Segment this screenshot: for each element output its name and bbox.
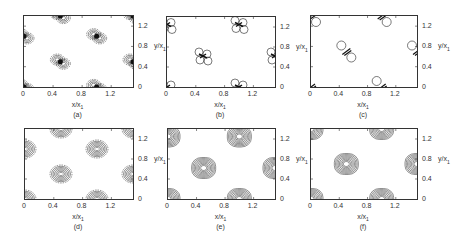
x-tick-label: 1.2: [390, 90, 400, 97]
y-tick-label: 0.4: [280, 63, 290, 70]
y-tick-label: 0.4: [422, 175, 432, 182]
contour-feature: [87, 79, 107, 87]
contour-feature: [311, 77, 321, 88]
contour-feature: [50, 54, 70, 69]
y-axis-label-text: y/x: [438, 42, 447, 49]
x-tick-label: 0.4: [333, 202, 343, 209]
x-tick-label: 1.2: [390, 202, 400, 209]
x-tick-label: 1.2: [105, 90, 115, 97]
y-tick-label: 0.8: [138, 155, 148, 162]
y-axis-label-text: y/x: [296, 43, 305, 50]
contour-feature: [122, 165, 133, 183]
x-axis-label-text: x/x: [215, 213, 224, 220]
contour-feature: [337, 41, 356, 62]
contour-feature: [405, 154, 417, 175]
y-tick-label: 1.2: [422, 135, 432, 142]
contour-feature: [167, 17, 176, 34]
x-tick-label: 0.8: [362, 90, 372, 97]
contour-feature: [50, 129, 72, 138]
x-axis-label: x/x1: [357, 101, 369, 110]
contour-feature: [370, 189, 394, 200]
x-tick-label: 0.4: [190, 90, 200, 97]
x-tick-label: 0.8: [76, 90, 86, 97]
x-axis-label: x/x1: [214, 101, 226, 110]
y-tick-label: 0: [280, 195, 284, 202]
contour-feature: [24, 79, 34, 87]
x-axis-label-subscript: 1: [366, 216, 369, 222]
contour-feature: [25, 140, 36, 158]
x-tick-label: 0: [308, 90, 312, 97]
y-axis-label: y/x1: [296, 43, 308, 52]
y-tick-label: 0.4: [138, 62, 148, 69]
x-axis-label: x/x1: [357, 213, 369, 222]
contour-feature: [122, 129, 133, 138]
x-axis-label-text: x/x: [72, 213, 81, 220]
y-axis-label-subscript: 1: [447, 158, 450, 164]
contour-feature: [311, 129, 323, 140]
contour-feature: [24, 29, 34, 44]
contour-feature: [311, 189, 323, 200]
x-axis-label-subscript: 1: [223, 104, 226, 110]
x-tick-label: 0: [308, 202, 312, 209]
y-axis-label-text: y/x: [154, 155, 163, 162]
plot-frame: [310, 15, 418, 88]
y-tick-label: 1.2: [138, 22, 148, 29]
x-tick-label: 0.8: [77, 202, 87, 209]
plot-frame: [24, 128, 134, 200]
x-axis-label-subscript: 1: [81, 104, 84, 110]
y-tick-label: 0.8: [280, 43, 290, 50]
contour-plot: [167, 17, 275, 87]
contour-feature: [192, 158, 216, 179]
x-tick-label: 0.8: [362, 202, 372, 209]
y-axis-label-subscript: 1: [305, 158, 308, 164]
x-tick-label: 0: [22, 202, 26, 209]
y-axis-label-subscript: 1: [305, 46, 308, 52]
contour-plot: [311, 129, 417, 199]
contour-feature: [195, 48, 212, 65]
y-tick-label: 1.2: [138, 135, 148, 142]
plot-frame: [166, 16, 276, 88]
contour-feature: [231, 79, 248, 87]
y-axis-label: y/x1: [154, 155, 166, 164]
y-axis-label-text: y/x: [154, 42, 163, 49]
panel-label: (b): [216, 111, 225, 118]
contour-feature: [168, 129, 180, 147]
x-axis-label-text: x/x: [357, 213, 366, 220]
x-axis-label-text: x/x: [357, 101, 366, 108]
contour-feature: [370, 129, 394, 140]
y-tick-label: 0.4: [138, 175, 148, 182]
plot-frame: [167, 128, 276, 200]
contour-feature: [408, 41, 418, 62]
y-tick-label: 0.4: [422, 62, 432, 69]
contour-feature: [334, 154, 358, 175]
y-tick-label: 0.8: [280, 155, 290, 162]
contour-plot: [25, 129, 133, 199]
panel-label: (f): [360, 223, 367, 230]
contour-feature: [123, 16, 133, 24]
x-tick-label: 0.8: [219, 202, 229, 209]
contour-feature: [231, 17, 248, 34]
y-tick-label: 0.8: [422, 42, 432, 49]
panel-label: (e): [216, 223, 225, 230]
x-tick-label: 0: [164, 90, 168, 97]
contour-feature: [263, 158, 275, 179]
y-tick-label: 1.2: [280, 135, 290, 142]
y-axis-label: y/x1: [438, 42, 450, 51]
y-axis-label: y/x1: [438, 155, 450, 164]
y-tick-label: 0: [138, 195, 142, 202]
contour-plot: [168, 129, 275, 199]
x-tick-label: 0.4: [333, 90, 343, 97]
y-axis-label-subscript: 1: [447, 46, 450, 52]
contour-feature: [227, 189, 251, 200]
contour-feature: [50, 165, 72, 183]
y-axis-label-text: y/x: [438, 155, 447, 162]
y-tick-label: 0: [422, 195, 426, 202]
contour-feature: [86, 140, 108, 158]
y-tick-label: 0.8: [422, 155, 432, 162]
x-tick-label: 0: [21, 90, 25, 97]
contour-feature: [86, 190, 108, 199]
contour-feature: [167, 79, 176, 87]
x-axis-label-subscript: 1: [366, 104, 369, 110]
x-axis-label: x/x1: [72, 101, 84, 110]
contour-feature: [267, 48, 275, 65]
